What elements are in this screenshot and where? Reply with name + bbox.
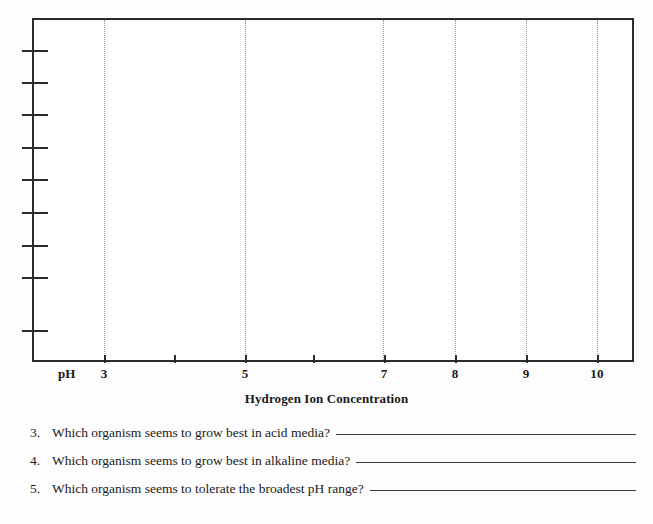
question-number: 5.: [30, 481, 52, 497]
x-axis-tick: [104, 355, 106, 363]
answer-blank-3[interactable]: [336, 434, 636, 435]
x-axis-tick: [455, 355, 457, 363]
y-axis-tick: [22, 212, 48, 214]
y-axis-tick: [22, 179, 48, 181]
worksheet-page: pH 3 5 7 8 9 10 Hydrogen Ion Concentrati…: [0, 0, 653, 524]
x-axis-label-8: 8: [435, 366, 475, 382]
x-axis-title: Hydrogen Ion Concentration: [0, 391, 653, 407]
question-text: Which organism seems to tolerate the bro…: [52, 481, 370, 497]
x-axis-label-9: 9: [506, 366, 546, 382]
question-list: 3. Which organism seems to grow best in …: [30, 425, 640, 509]
gridline-ph-7: [383, 20, 384, 360]
x-axis-tick: [384, 355, 386, 363]
x-axis-tick: [597, 355, 599, 363]
y-axis-tick: [22, 82, 48, 84]
answer-blank-4[interactable]: [356, 462, 636, 463]
y-axis-tick: [22, 277, 48, 279]
gridline-ph-3: [104, 20, 105, 360]
x-axis-tick: [526, 355, 528, 363]
question-number: 3.: [30, 425, 52, 441]
gridline-ph-10: [597, 20, 598, 360]
y-axis-tick: [22, 147, 48, 149]
gridline-ph-5: [245, 20, 246, 360]
question-number: 4.: [30, 453, 52, 469]
answer-blank-5[interactable]: [370, 490, 636, 491]
x-axis-label-10: 10: [577, 366, 617, 382]
chart-plot-area: [32, 18, 634, 362]
x-axis-label-5: 5: [225, 366, 265, 382]
question-item-5: 5. Which organism seems to tolerate the …: [30, 481, 640, 509]
question-text: Which organism seems to grow best in alk…: [52, 453, 356, 469]
y-axis-tick: [22, 245, 48, 247]
x-axis-tick: [174, 355, 176, 363]
question-text: Which organism seems to grow best in aci…: [52, 425, 336, 441]
x-axis-prefix-label: pH: [58, 366, 75, 382]
x-axis-tick: [245, 355, 247, 363]
y-axis-tick: [22, 330, 48, 332]
gridline-ph-9: [526, 20, 527, 360]
y-axis-tick: [22, 50, 48, 52]
x-axis-label-3: 3: [84, 366, 124, 382]
y-axis-tick: [22, 114, 48, 116]
question-item-4: 4. Which organism seems to grow best in …: [30, 453, 640, 481]
x-axis-tick: [313, 355, 315, 363]
x-axis-label-7: 7: [364, 366, 404, 382]
gridline-ph-8: [455, 20, 456, 360]
question-item-3: 3. Which organism seems to grow best in …: [30, 425, 640, 453]
